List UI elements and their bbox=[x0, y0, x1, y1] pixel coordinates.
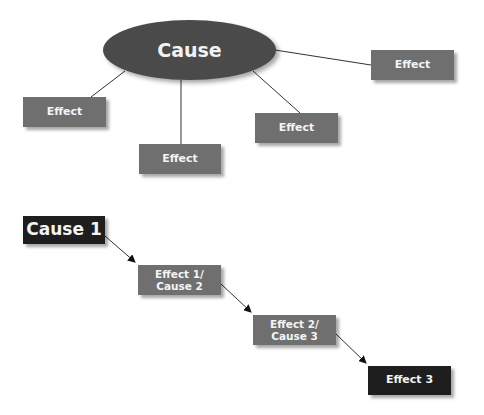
connector-line bbox=[253, 71, 300, 113]
arrow-connector bbox=[221, 284, 251, 312]
cause-2-label: Cause 2 bbox=[156, 280, 203, 292]
effect-box-far-right: Effect bbox=[371, 50, 454, 80]
cause-1-label: Cause 1 bbox=[26, 220, 101, 240]
arrow-connector bbox=[105, 236, 135, 262]
effect-3-box: Effect 3 bbox=[368, 366, 451, 395]
connector-line bbox=[275, 50, 371, 65]
connector-line bbox=[91, 71, 125, 97]
cause-3-label: Cause 3 bbox=[271, 330, 318, 342]
effect-box-left: Effect bbox=[23, 97, 106, 127]
cause-label: Cause bbox=[157, 39, 222, 61]
effect-label: Effect bbox=[47, 106, 83, 119]
effect-label: Effect bbox=[162, 153, 198, 166]
effect-1-label: Effect 1/ bbox=[155, 268, 204, 280]
cause-ellipse: Cause bbox=[103, 20, 276, 80]
effect-box-middle-right: Effect bbox=[255, 113, 338, 143]
effect-1-cause-2-box: Effect 1/ Cause 2 bbox=[138, 265, 221, 295]
effect-label: Effect bbox=[395, 59, 431, 72]
effect-3-label: Effect 3 bbox=[386, 374, 433, 387]
effect-2-label: Effect 2/ bbox=[270, 318, 319, 330]
effect-box-bottom: Effect bbox=[139, 144, 221, 174]
effect-label: Effect bbox=[279, 122, 315, 135]
cause-1-box: Cause 1 bbox=[23, 216, 105, 244]
effect-2-cause-3-box: Effect 2/ Cause 3 bbox=[253, 315, 336, 345]
arrow-connector bbox=[336, 334, 366, 363]
